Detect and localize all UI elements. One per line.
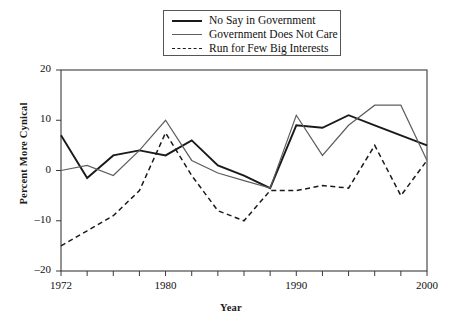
y-axis-title: Percent More Cynical <box>18 84 29 224</box>
legend-item-no-say: No Say in Government <box>170 14 340 27</box>
legend-label: No Say in Government <box>209 14 315 27</box>
y-tick-label: 0 <box>21 163 51 175</box>
y-axis-ticks <box>56 70 61 271</box>
x-tick-label: 1980 <box>146 279 186 291</box>
x-tick-label: 2000 <box>407 279 447 291</box>
x-tick-label: 1990 <box>276 279 316 291</box>
plot-frame <box>61 70 427 271</box>
legend-line-icon-solid-dark <box>170 16 204 26</box>
legend-label: Run for Few Big Interests <box>209 42 328 55</box>
legend-label: Government Does Not Care <box>209 28 338 41</box>
legend-line-icon-solid-gray <box>170 30 204 40</box>
y-tick-label: 20 <box>21 62 51 74</box>
y-tick-label: –10 <box>21 213 51 225</box>
x-axis-title: Year <box>0 302 462 313</box>
legend-line-icon-dashed <box>170 44 204 54</box>
y-tick-label: –20 <box>21 263 51 275</box>
series-line-2 <box>61 133 427 246</box>
chart-figure: No Say in Government Government Does Not… <box>0 0 462 327</box>
legend-item-does-not-care: Government Does Not Care <box>170 28 340 41</box>
chart-legend: No Say in Government Government Does Not… <box>163 10 341 56</box>
x-axis-ticks <box>61 271 427 276</box>
legend-item-big-interests: Run for Few Big Interests <box>170 42 340 55</box>
series-lines <box>61 105 427 246</box>
y-tick-label: 10 <box>21 112 51 124</box>
x-tick-label: 1972 <box>41 279 81 291</box>
series-line-0 <box>61 115 427 188</box>
